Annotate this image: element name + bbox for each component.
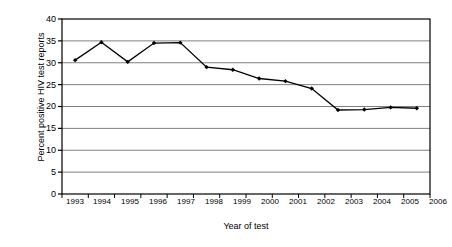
chart-figure: Percent positive HIV test reports Year o… bbox=[0, 0, 452, 247]
data-point-2004 bbox=[362, 107, 366, 111]
gridlines bbox=[62, 41, 430, 172]
data-point-2000 bbox=[257, 76, 261, 80]
data-series-line bbox=[75, 42, 417, 110]
data-point-2005 bbox=[388, 105, 392, 109]
data-markers bbox=[73, 40, 419, 112]
plot-area bbox=[0, 0, 452, 247]
x-tick-marks bbox=[62, 194, 430, 198]
data-point-1999 bbox=[231, 68, 235, 72]
data-point-2001 bbox=[283, 79, 287, 83]
